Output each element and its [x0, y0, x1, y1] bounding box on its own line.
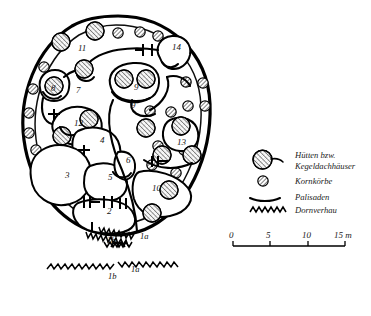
map-label-8: 8 [51, 83, 56, 93]
kornkorb [28, 84, 38, 94]
kornkorb [198, 78, 208, 88]
map-label-14: 14 [172, 42, 182, 52]
map-label-2: 2 [107, 206, 112, 216]
legend-symbol-kornkoerbe [258, 176, 268, 186]
kornkorb [183, 101, 193, 111]
kornkorb [24, 128, 34, 138]
hut [160, 181, 178, 199]
kornkorb [200, 101, 210, 111]
legend-label-huts-line2: Kegeldachhäuser [294, 161, 356, 171]
compound-3 [30, 145, 91, 205]
site-plan-figure: 11148799124133561021a1b1a1b Hütten bzw. … [0, 0, 371, 316]
scale-tick-5: 5 [266, 230, 271, 240]
map-label-5: 5 [108, 172, 113, 182]
map-label-7: 7 [76, 85, 81, 95]
hut [86, 22, 104, 40]
map-label-13: 13 [177, 137, 187, 147]
map-label-1a: 1a [140, 231, 149, 241]
map-label-9: 9 [131, 100, 136, 110]
hut [183, 146, 201, 164]
scale-tick-15: 15 m [334, 230, 352, 240]
legend-label-kornkoerbe: Kornkörbe [294, 176, 332, 186]
map-label-10: 10 [152, 183, 162, 193]
legend-label-huts-line1: Hütten bzw. [294, 150, 335, 160]
map-label-4: 4 [100, 135, 105, 145]
map-label-11: 11 [78, 43, 86, 53]
map-label-1a: 1a [131, 264, 140, 274]
hut [115, 70, 133, 88]
map-label-12: 12 [74, 118, 84, 128]
map-label-6: 6 [126, 155, 131, 165]
scale-tick-10: 10 [302, 230, 312, 240]
legend-label-dornverhau: Dornverhau [294, 205, 337, 215]
legend-label-palisaden: Palisaden [294, 192, 329, 202]
kornkorb [113, 28, 123, 38]
hut [52, 33, 70, 51]
kornkorb [166, 107, 176, 117]
hut [137, 119, 155, 137]
hut [172, 117, 190, 135]
kornkorb [24, 108, 34, 118]
hut [143, 204, 161, 222]
kornkorb [135, 27, 145, 37]
map-label-1b: 1b [108, 271, 117, 281]
scale-tick-0: 0 [229, 230, 234, 240]
map-label-1b: 1b [107, 235, 116, 245]
map-label-3: 3 [64, 170, 70, 180]
hut [137, 70, 155, 88]
map-label-9: 9 [134, 82, 139, 92]
